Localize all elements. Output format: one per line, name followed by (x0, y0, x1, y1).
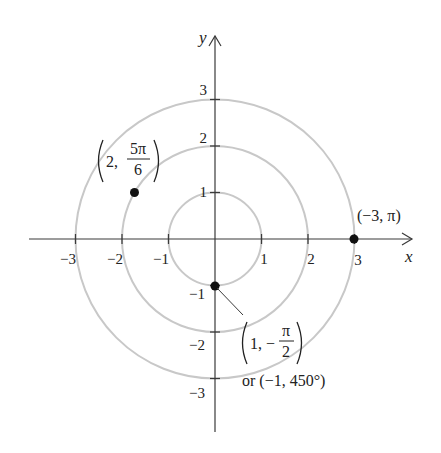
y-tick-labels: 3 2 1 −1 −2 −3 (189, 82, 207, 401)
x-tick-label: −3 (60, 251, 76, 267)
y-tick-label: 1 (200, 184, 208, 200)
polar-diagram: −3 −2 −1 1 2 3 3 2 1 −1 −2 −3 x y 2, 5π … (0, 0, 441, 453)
label-r: 2, (106, 153, 118, 170)
label-r: 1, − (250, 335, 275, 352)
x-tick-label: −1 (153, 251, 169, 267)
x-tick-label: 3 (354, 252, 362, 268)
x-tick-label: 1 (260, 251, 268, 267)
label-numerator: 5π (130, 140, 146, 157)
x-tick-label: −2 (107, 251, 123, 267)
point-neg3-pi (350, 235, 359, 244)
y-tick-label: −2 (189, 337, 205, 353)
leader-line (217, 288, 243, 315)
label-denominator: 6 (134, 161, 142, 178)
y-tick-label: −3 (189, 385, 205, 401)
y-tick-label: −1 (189, 286, 205, 302)
y-tick-label: 2 (200, 130, 208, 146)
label-point-2-5pi-over-6: 2, 5π 6 (99, 140, 159, 182)
x-tick-label: 2 (307, 251, 315, 267)
label-alternate: or (−1, 450°) (242, 372, 325, 390)
x-tick-labels: −3 −2 −1 1 2 3 (60, 251, 362, 268)
label-denominator: 2 (282, 343, 290, 360)
right-paren-icon (297, 322, 302, 364)
label-numerator: π (282, 322, 290, 339)
label-point-1-neg-pi-over-2: 1, − π 2 or (−1, 450°) (242, 322, 325, 390)
x-axis-label: x (404, 247, 413, 266)
label-point-neg3-pi: (−3, π) (357, 207, 401, 225)
y-axis-label: y (197, 28, 207, 47)
point-2-5pi-over-6 (130, 188, 139, 197)
right-paren-icon (154, 140, 159, 182)
y-tick-label: 3 (200, 82, 208, 98)
